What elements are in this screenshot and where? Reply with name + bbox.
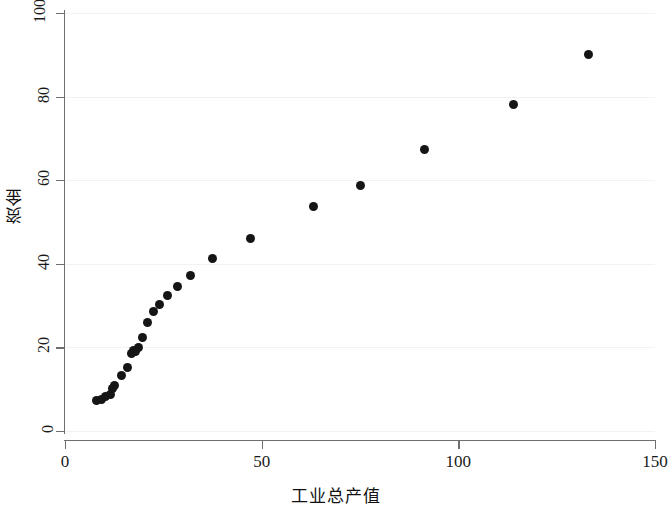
data-point [584, 50, 593, 59]
y-tick-60 [56, 180, 65, 181]
data-point [163, 291, 172, 300]
x-axis-title: 工业总产值 [0, 482, 672, 507]
y-tick-0 [56, 431, 65, 432]
x-tick-label-150: 150 [625, 452, 672, 472]
data-point [155, 300, 164, 309]
data-point [110, 381, 119, 390]
x-tick-50 [262, 440, 263, 449]
y-axis-title: 资金 [2, 188, 27, 224]
y-tick-40 [56, 264, 65, 265]
data-point [246, 234, 255, 243]
x-tick-label-50: 50 [232, 452, 292, 472]
data-point [509, 100, 518, 109]
x-tick-label-100: 100 [428, 452, 488, 472]
plot-area [65, 13, 655, 431]
x-tick-label-0: 0 [35, 452, 95, 472]
y-tick-label-80: 80 [0, 86, 52, 104]
data-point [138, 333, 147, 342]
scatter-chart: 020406080100 050100150 资金 工业总产值 [0, 0, 672, 512]
data-point [356, 181, 365, 190]
data-point [143, 318, 152, 327]
x-tick-0 [65, 440, 66, 449]
data-point [117, 371, 126, 380]
y-tick-label-40: 40 [0, 253, 52, 271]
y-tick-label-60: 60 [0, 169, 52, 187]
y-tick-80 [56, 97, 65, 98]
data-point [208, 254, 217, 263]
x-tick-150 [655, 440, 656, 449]
y-tick-label-100: 100 [0, 2, 52, 20]
data-point [309, 202, 318, 211]
x-axis-line [64, 440, 656, 441]
data-point [123, 363, 132, 372]
y-tick-20 [56, 347, 65, 348]
data-point [173, 282, 182, 291]
gridline-y-0 [65, 431, 655, 432]
data-point [420, 145, 429, 154]
data-point [186, 271, 195, 280]
data-point [134, 343, 143, 352]
y-tick-100 [56, 13, 65, 14]
y-tick-label-0: 0 [0, 420, 52, 438]
y-tick-label-20: 20 [0, 336, 52, 354]
x-tick-100 [458, 440, 459, 449]
